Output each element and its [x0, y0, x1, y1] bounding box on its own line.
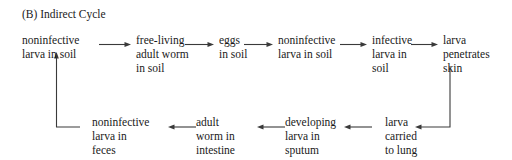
- arrow-bottom-1: [168, 125, 196, 130]
- node-line: adult worm: [136, 47, 189, 61]
- node-line: in soil: [136, 61, 189, 75]
- node-line: worm in: [196, 129, 235, 143]
- node-line: to lung: [385, 143, 417, 157]
- node-line: noninfective: [92, 115, 149, 129]
- node-developing-larva-in-sputum: developing larva in sputum: [285, 115, 336, 158]
- node-line: infective: [372, 33, 412, 47]
- node-line: in soil: [219, 47, 247, 61]
- node-eggs-in-soil: eggs in soil: [219, 33, 247, 61]
- node-line: larva in soil: [278, 47, 335, 61]
- node-adult-worm-in-intestine: adult worm in intestine: [196, 115, 235, 158]
- node-line: larva in: [372, 47, 412, 61]
- node-line: larva in soil: [22, 47, 79, 61]
- node-line: intestine: [196, 143, 235, 157]
- arrow-bottom-2: [257, 125, 285, 130]
- arrow-top-2: [185, 42, 214, 47]
- arrow-bottom-3: [344, 125, 372, 130]
- arrow-top-4: [340, 42, 367, 47]
- arrow-top-3: [244, 42, 273, 47]
- node-infective-larva-in-soil: infective larva in soil: [372, 33, 412, 76]
- connector-left-feces-to-soil: [54, 52, 80, 127]
- node-line: noninfective: [278, 33, 335, 47]
- arrow-top-5: [411, 42, 438, 47]
- node-line: eggs: [219, 33, 247, 47]
- node-line: noninfective: [22, 33, 79, 47]
- node-line: larva in: [92, 129, 149, 143]
- diagram-connectors: [0, 0, 512, 160]
- node-line: skin: [443, 61, 490, 75]
- node-line: soil: [372, 61, 412, 75]
- node-line: sputum: [285, 143, 336, 157]
- node-free-living-adult-worm-in-soil: free-living adult worm in soil: [136, 33, 189, 76]
- node-line: developing: [285, 115, 336, 129]
- node-noninfective-larva-in-feces: noninfective larva in feces: [92, 115, 149, 158]
- node-line: feces: [92, 143, 149, 157]
- node-larva-carried-to-lung: larva carried to lung: [385, 115, 417, 158]
- node-line: free-living: [136, 33, 189, 47]
- indirect-cycle-diagram: (B) Indirect Cycle: [0, 0, 512, 160]
- node-line: penetrates: [443, 47, 490, 61]
- node-noninfective-larva-in-soil-top: noninfective larva in soil: [22, 33, 79, 61]
- node-line: larva: [443, 33, 490, 47]
- node-line: adult: [196, 115, 235, 129]
- node-line: larva in: [285, 129, 336, 143]
- arrow-top-1: [99, 42, 131, 47]
- node-line: carried: [385, 129, 417, 143]
- node-line: larva: [385, 115, 417, 129]
- node-larva-penetrates-skin: larva penetrates skin: [443, 33, 490, 76]
- node-noninfective-larva-in-soil-2: noninfective larva in soil: [278, 33, 335, 61]
